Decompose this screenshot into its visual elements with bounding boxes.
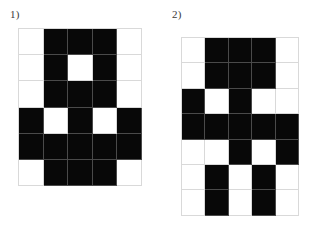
grid-cell[interactable] <box>229 165 252 190</box>
grid-cell[interactable] <box>276 114 299 139</box>
grid-cell[interactable] <box>182 190 205 215</box>
grid-cell[interactable] <box>44 160 69 186</box>
grid-cell[interactable] <box>229 114 252 139</box>
puzzle-1-label: 1) <box>10 9 20 20</box>
grid-cell[interactable] <box>182 114 205 139</box>
grid-cell[interactable] <box>93 160 118 186</box>
grid-cell[interactable] <box>117 29 142 55</box>
grid-cell[interactable] <box>252 165 275 190</box>
grid-cell[interactable] <box>205 89 228 114</box>
grid-cell[interactable] <box>117 160 142 186</box>
grid-cell[interactable] <box>252 63 275 88</box>
grid-cell[interactable] <box>44 29 69 55</box>
grid-cell[interactable] <box>19 55 44 81</box>
grid-cell[interactable] <box>93 81 118 107</box>
grid-cell[interactable] <box>276 140 299 165</box>
grid-cell[interactable] <box>229 38 252 63</box>
grid-cell[interactable] <box>205 63 228 88</box>
grid-cell[interactable] <box>68 81 93 107</box>
grid-cell[interactable] <box>93 108 118 134</box>
puzzle-2-label: 2) <box>172 9 182 20</box>
grid-cell[interactable] <box>19 81 44 107</box>
grid-cell[interactable] <box>182 89 205 114</box>
grid-cell[interactable] <box>19 134 44 160</box>
grid-cell[interactable] <box>276 165 299 190</box>
grid-cell[interactable] <box>276 89 299 114</box>
grid-cell[interactable] <box>68 134 93 160</box>
grid-cell[interactable] <box>117 108 142 134</box>
grid-cell[interactable] <box>68 108 93 134</box>
grid-cell[interactable] <box>44 108 69 134</box>
grid-cell[interactable] <box>44 55 69 81</box>
grid-cell[interactable] <box>276 63 299 88</box>
grid-cell[interactable] <box>19 108 44 134</box>
grid-cell[interactable] <box>93 55 118 81</box>
grid-cell[interactable] <box>93 134 118 160</box>
grid-cell[interactable] <box>205 165 228 190</box>
grid-cell[interactable] <box>252 114 275 139</box>
grid-cell[interactable] <box>117 81 142 107</box>
grid-cell[interactable] <box>44 81 69 107</box>
grid-cell[interactable] <box>68 55 93 81</box>
grid-cell[interactable] <box>205 140 228 165</box>
grid-cell[interactable] <box>19 29 44 55</box>
grid-cell[interactable] <box>205 190 228 215</box>
grid-cell[interactable] <box>276 38 299 63</box>
grid-cell[interactable] <box>252 89 275 114</box>
grid-cell[interactable] <box>182 165 205 190</box>
grid-cell[interactable] <box>19 160 44 186</box>
grid-cell[interactable] <box>117 55 142 81</box>
grid-cell[interactable] <box>229 140 252 165</box>
puzzle-worksheet: 1) 2) <box>0 0 311 240</box>
grid-cell[interactable] <box>182 140 205 165</box>
grid-cell[interactable] <box>182 63 205 88</box>
grid-cell[interactable] <box>68 160 93 186</box>
grid-cell[interactable] <box>229 190 252 215</box>
grid-cell[interactable] <box>205 38 228 63</box>
grid-cell[interactable] <box>93 29 118 55</box>
grid-cell[interactable] <box>252 38 275 63</box>
puzzle-1-grid[interactable] <box>18 28 142 186</box>
puzzle-2-grid[interactable] <box>181 37 299 216</box>
grid-cell[interactable] <box>276 190 299 215</box>
grid-cell[interactable] <box>252 190 275 215</box>
grid-cell[interactable] <box>182 38 205 63</box>
grid-cell[interactable] <box>68 29 93 55</box>
grid-cell[interactable] <box>117 134 142 160</box>
grid-cell[interactable] <box>252 140 275 165</box>
grid-cell[interactable] <box>205 114 228 139</box>
grid-cell[interactable] <box>44 134 69 160</box>
grid-cell[interactable] <box>229 63 252 88</box>
grid-cell[interactable] <box>229 89 252 114</box>
